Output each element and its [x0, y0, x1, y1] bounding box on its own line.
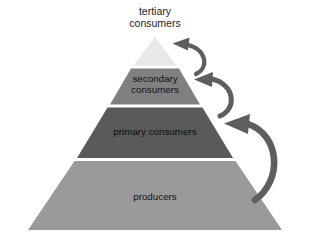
pyramid-canvas [0, 0, 309, 244]
trophic-pyramid-diagram: tertiary consumers secondary consumers p… [0, 0, 309, 244]
